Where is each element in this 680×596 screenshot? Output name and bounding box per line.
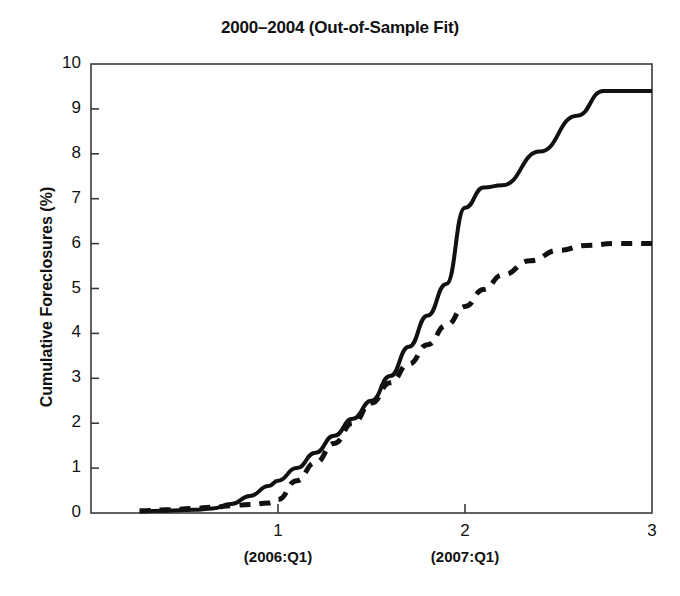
y-tick-label: 4 [41,322,81,342]
y-tick-label: 10 [41,53,81,73]
series-line-predicted [140,244,652,511]
chart-figure: 2000–2004 (Out-of-Sample Fit) Cumulative… [0,0,680,596]
y-tick-label: 1 [41,457,81,477]
x-tick-marks [278,504,465,513]
data-series-layer [140,91,652,511]
x-tick-label: 2 [445,521,485,541]
plot-area [0,0,680,596]
x-tick-sublabel: (2007:Q1) [395,548,535,565]
y-tick-label: 3 [41,367,81,387]
y-tick-marks [91,109,99,468]
y-tick-label: 9 [41,98,81,118]
plot-frame [91,64,652,513]
series-line-actual [140,91,652,511]
y-tick-label: 0 [41,502,81,522]
y-tick-label: 2 [41,412,81,432]
y-tick-label: 6 [41,233,81,253]
x-tick-label: 3 [632,521,672,541]
y-tick-label: 7 [41,188,81,208]
y-tick-label: 8 [41,143,81,163]
y-tick-label: 5 [41,278,81,298]
x-tick-sublabel: (2006:Q1) [208,548,348,565]
x-tick-label: 1 [258,521,298,541]
